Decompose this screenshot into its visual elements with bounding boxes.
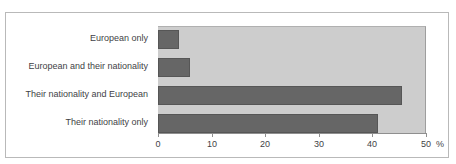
axis-tick-label-50: 50 [421, 139, 431, 149]
bar-european-and-nationality[interactable] [158, 58, 190, 77]
figure-caption: Figure 4.1 European identity and nationa… [0, 0, 456, 5]
category-label-nationality-only: Their nationality only [65, 113, 148, 132]
bar-nationality-and-european[interactable] [158, 86, 402, 105]
axis-tick-label-30: 30 [314, 139, 324, 149]
value-axis-line [158, 133, 427, 134]
figure-frame: European only European and their nationa… [5, 12, 449, 158]
axis-tick-label-10: 10 [207, 139, 217, 149]
category-label-european-and-nationality: European and their nationality [28, 57, 148, 76]
category-label-nationality-and-european: Their nationality and European [25, 85, 148, 104]
figure-caption-text: Figure 4.1 European identity and nationa… [0, 0, 456, 1]
axis-tick-30 [319, 133, 320, 137]
axis-tick-50 [426, 133, 427, 137]
axis-tick-10 [212, 133, 213, 137]
category-axis: European only European and their nationa… [6, 26, 154, 133]
axis-tick-label-20: 20 [260, 139, 270, 149]
bar-european-only[interactable] [158, 30, 179, 49]
axis-unit-label: % [436, 139, 444, 149]
axis-tick-label-0: 0 [155, 139, 160, 149]
bar-nationality-only[interactable] [158, 114, 378, 133]
axis-tick-0 [158, 133, 159, 137]
category-label-european-only: European only [90, 29, 148, 48]
bar-series [158, 27, 425, 133]
axis-tick-20 [265, 133, 266, 137]
plot-area [158, 26, 426, 133]
bar-chart: European only European and their nationa… [6, 13, 448, 157]
axis-tick-40 [372, 133, 373, 137]
axis-tick-label-40: 40 [367, 139, 377, 149]
